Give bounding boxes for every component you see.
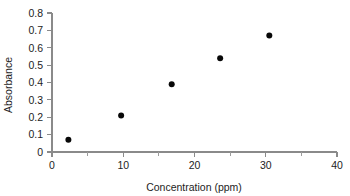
x-axis-tick-labels: 010203040 — [49, 159, 343, 171]
data-point — [118, 113, 124, 119]
y-tick-label: 0.1 — [28, 128, 43, 140]
x-tick-label: 40 — [331, 159, 343, 171]
y-tick-label: 0.5 — [28, 59, 43, 71]
y-tick-label: 0 — [37, 146, 43, 158]
data-point — [65, 137, 71, 143]
y-tick-label: 0.3 — [28, 94, 43, 106]
x-tick-label: 30 — [260, 159, 272, 171]
y-axis-tick-labels: 00.10.20.30.40.50.60.70.8 — [28, 7, 43, 158]
data-point — [169, 81, 175, 87]
chart-tick-marks — [47, 13, 337, 157]
data-point-series — [65, 33, 272, 143]
y-tick-label: 0.7 — [28, 24, 43, 36]
chart-canvas: 010203040 00.10.20.30.40.50.60.70.8 Conc… — [0, 0, 350, 196]
absorbance-vs-concentration-chart: 010203040 00.10.20.30.40.50.60.70.8 Conc… — [0, 0, 350, 196]
x-axis-title: Concentration (ppm) — [146, 181, 242, 193]
x-tick-label: 20 — [189, 159, 201, 171]
x-tick-label: 0 — [49, 159, 55, 171]
axis-spine — [52, 13, 337, 152]
chart-axes — [52, 13, 337, 152]
x-tick-label: 10 — [117, 159, 129, 171]
y-tick-label: 0.4 — [28, 76, 43, 88]
y-tick-label: 0.2 — [28, 111, 43, 123]
y-axis-title: Absorbance — [2, 57, 14, 113]
y-tick-label: 0.6 — [28, 42, 43, 54]
y-tick-label: 0.8 — [28, 7, 43, 19]
data-point — [217, 55, 223, 61]
data-point — [266, 33, 272, 39]
